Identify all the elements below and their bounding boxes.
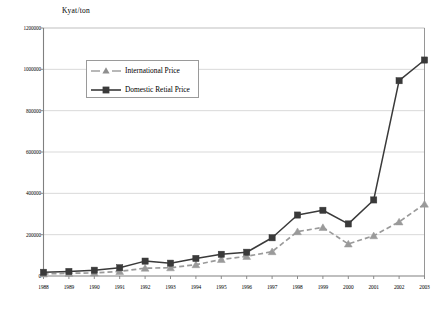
series-line-international xyxy=(44,204,425,274)
data-point-marker-square xyxy=(167,260,173,266)
legend-swatch-domestic xyxy=(91,84,121,96)
data-point-marker-square xyxy=(142,258,148,264)
legend-item-international: International Price xyxy=(87,61,198,80)
chart-legend: International Price Domestic Retial Pric… xyxy=(86,60,199,98)
data-point-marker-square xyxy=(320,207,326,213)
data-point-marker-square xyxy=(40,269,46,275)
data-point-marker-square xyxy=(117,265,123,271)
data-point-marker-square xyxy=(193,255,199,261)
data-point-marker-square xyxy=(345,221,351,227)
data-point-marker-square xyxy=(218,251,224,257)
data-point-marker-square xyxy=(371,197,377,203)
legend-swatch-international xyxy=(91,65,121,77)
data-point-marker-triangle xyxy=(370,232,378,239)
legend-label-international: International Price xyxy=(125,66,180,75)
data-point-marker-square xyxy=(269,235,275,241)
data-point-marker-square xyxy=(421,57,427,63)
data-point-marker-square xyxy=(396,78,402,84)
data-point-marker-square xyxy=(66,268,72,274)
plot-area xyxy=(0,0,447,310)
data-point-marker-square xyxy=(294,212,300,218)
data-point-marker-square xyxy=(244,249,250,255)
price-trend-chart: Kyat/ton 0200000400000600000800000100000… xyxy=(0,0,447,310)
data-point-marker-triangle xyxy=(421,200,429,207)
data-point-marker-triangle xyxy=(319,224,327,231)
legend-label-domestic: Domestic Retial Price xyxy=(125,85,190,94)
legend-item-domestic: Domestic Retial Price xyxy=(87,80,198,99)
data-point-marker-square xyxy=(91,267,97,273)
